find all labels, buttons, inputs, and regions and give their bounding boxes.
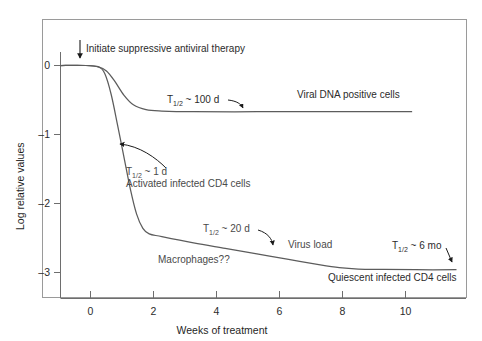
half-life-20d-value: ~ 20 d: [219, 223, 250, 234]
x-tick-label-2: 2: [151, 305, 157, 317]
activated-infected-cd4-label: Activated infected CD4 cells: [126, 178, 251, 189]
y-tick-label-0: 0: [44, 59, 50, 71]
y-tick-label-minus2: –2: [38, 197, 50, 209]
macrophages-label: Macrophages??: [158, 254, 230, 265]
x-tick-label-10: 10: [400, 305, 412, 317]
figure-container: 0 –1 –2 –3 Log relative values 0 2 4 6 8…: [0, 0, 482, 341]
half-life-100d-value: ~ 100 d: [183, 94, 219, 105]
viral-dna-positive-cells-label: Viral DNA positive cells: [297, 89, 400, 100]
y-axis-title: Log relative values: [14, 142, 26, 230]
half-life-20d-label: T1/2 ~ 20 d: [203, 223, 250, 236]
quiescent-infected-cd4-label: Quiescent infected CD4 cells: [328, 272, 456, 283]
half-life-6mo-label: T1/2 ~ 6 mo: [392, 240, 442, 253]
t-subscript-100d: 1/2: [173, 100, 183, 107]
half-life-100d-label: T1/2 ~ 100 d: [167, 94, 219, 107]
half-life-20d-arrow-icon: [258, 230, 273, 245]
half-life-100d-arrow-icon: [228, 100, 243, 108]
x-tick-label-0: 0: [88, 305, 94, 317]
half-life-1d-value: ~ 1 d: [142, 166, 167, 177]
virus-load-label: Virus load: [288, 239, 332, 250]
x-tick-label-8: 8: [340, 305, 346, 317]
figure-frame: [43, 20, 467, 298]
t-subscript-20d: 1/2: [209, 229, 219, 236]
chart-svg: 0 –1 –2 –3 Log relative values 0 2 4 6 8…: [0, 0, 482, 341]
y-tick-label-minus1: –1: [38, 128, 50, 140]
x-tick-label-6: 6: [277, 305, 283, 317]
x-tick-label-4: 4: [214, 305, 220, 317]
y-tick-label-minus3: –3: [38, 266, 50, 278]
initiate-therapy-label: Initiate suppressive antiviral therapy: [86, 43, 245, 54]
activated-cd4-arrow-icon: [120, 144, 166, 168]
t-subscript-6mo: 1/2: [398, 246, 408, 253]
half-life-6mo-arrow-icon: [446, 248, 452, 262]
half-life-6mo-value: ~ 6 mo: [408, 240, 442, 251]
x-axis-title: Weeks of treatment: [177, 324, 268, 336]
